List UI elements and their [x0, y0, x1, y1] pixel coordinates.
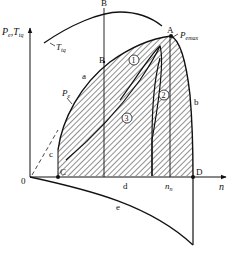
hatched-work-region: [58, 36, 193, 176]
x-axis-label: n: [219, 181, 224, 192]
region-label-1: 1: [129, 55, 139, 65]
label-c: C: [60, 167, 66, 177]
label-d: D: [196, 167, 203, 177]
curve-label-e: e: [116, 202, 120, 212]
origin-label: 0: [21, 176, 26, 186]
dashed-line-c: [32, 130, 58, 175]
curve-label-b: b: [194, 97, 199, 107]
curve-label-c: c: [49, 149, 53, 159]
label-b-mid: B: [99, 55, 105, 65]
y-axis-label: Pe,Ttq: [1, 26, 24, 38]
region-label-3: 3: [122, 113, 132, 123]
svg-text:3: 3: [125, 114, 129, 123]
label-b-top: B: [101, 0, 107, 8]
label-a: A: [167, 25, 174, 35]
pemax-label: Pemax: [179, 30, 198, 41]
pemax-leader: [173, 34, 178, 37]
nn-label: nn: [165, 181, 173, 192]
point-d: [191, 175, 195, 179]
torque-label-leader: [50, 43, 55, 46]
engine-characteristic-diagram: Pe,Ttq n 0 Ttq A B B C D Pemax Pe: [0, 0, 232, 256]
svg-text:1: 1: [132, 56, 136, 65]
curve-label-d: d: [123, 181, 128, 191]
curve-label-a: a: [82, 71, 86, 81]
torque-curve: [44, 12, 162, 43]
torque-curve-label: Ttq: [56, 42, 66, 53]
power-curve-label: Pe: [61, 88, 71, 99]
svg-text:2: 2: [162, 91, 166, 100]
region-label-2: 2: [159, 90, 169, 100]
